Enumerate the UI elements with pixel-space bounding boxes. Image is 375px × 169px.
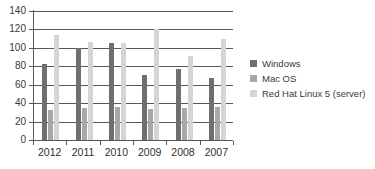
legend-label: Mac OS bbox=[262, 73, 296, 84]
bar bbox=[48, 110, 53, 140]
bar-group bbox=[42, 11, 59, 140]
y-axis-tick-labels: 020406080100120140 bbox=[0, 0, 28, 169]
bar bbox=[76, 48, 81, 140]
bar bbox=[188, 56, 193, 140]
x-tick-mark bbox=[133, 141, 134, 145]
y-tick-label: 40 bbox=[15, 98, 26, 108]
bar bbox=[109, 43, 114, 140]
x-tick-mark bbox=[233, 141, 234, 145]
legend-item[interactable]: Mac OS bbox=[250, 71, 365, 85]
x-tick-mark bbox=[100, 141, 101, 145]
x-tick-label: 2012 bbox=[33, 146, 67, 158]
y-tick-label: 120 bbox=[9, 24, 26, 34]
bar-chart: 020406080100120140 201220112010200920082… bbox=[0, 0, 375, 169]
x-tick-mark bbox=[200, 141, 201, 145]
x-tick-label: 2007 bbox=[199, 146, 233, 158]
y-tick-label: 140 bbox=[9, 6, 26, 16]
bar bbox=[88, 42, 93, 140]
bar-group bbox=[142, 11, 159, 140]
x-tick-mark bbox=[166, 141, 167, 145]
legend-label: Windows bbox=[262, 58, 301, 69]
legend-item[interactable]: Windows bbox=[250, 56, 365, 70]
y-tick-label: 100 bbox=[9, 43, 26, 53]
bar bbox=[209, 78, 214, 140]
bar-group bbox=[209, 11, 226, 140]
x-tick-mark bbox=[66, 141, 67, 145]
bar-group bbox=[109, 11, 126, 140]
bar bbox=[42, 64, 47, 140]
legend-item[interactable]: Red Hat Linux 5 (server) bbox=[250, 86, 365, 100]
bar bbox=[182, 108, 187, 140]
bar bbox=[115, 107, 120, 140]
legend-swatch-icon bbox=[250, 60, 257, 67]
y-tick-label: 0 bbox=[20, 135, 26, 145]
y-tick-label: 60 bbox=[15, 80, 26, 90]
bar bbox=[142, 75, 147, 140]
x-tick-label: 2011 bbox=[66, 146, 100, 158]
bar bbox=[215, 107, 220, 140]
bar bbox=[148, 109, 153, 140]
x-tick-mark bbox=[33, 141, 34, 145]
bar bbox=[221, 39, 226, 140]
y-tick-label: 80 bbox=[15, 61, 26, 71]
legend-label: Red Hat Linux 5 (server) bbox=[262, 88, 365, 99]
bar bbox=[82, 108, 87, 140]
legend-swatch-icon bbox=[250, 90, 257, 97]
bar-group bbox=[76, 11, 93, 140]
chart-legend: WindowsMac OSRed Hat Linux 5 (server) bbox=[250, 56, 365, 101]
plot-area bbox=[33, 11, 233, 140]
bar bbox=[121, 43, 126, 140]
y-tick-label: 20 bbox=[15, 117, 26, 127]
legend-swatch-icon bbox=[250, 75, 257, 82]
bar bbox=[154, 29, 159, 140]
x-tick-label: 2010 bbox=[99, 146, 133, 158]
bar-group bbox=[176, 11, 193, 140]
bar bbox=[54, 35, 59, 140]
x-tick-label: 2009 bbox=[133, 146, 167, 158]
bar bbox=[176, 69, 181, 140]
x-tick-label: 2008 bbox=[166, 146, 200, 158]
